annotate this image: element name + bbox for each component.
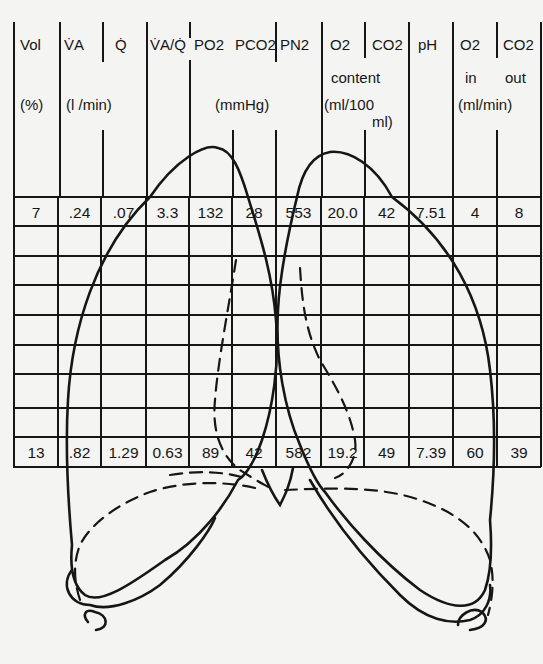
apex-o2-in: 4 — [453, 204, 497, 222]
apex-po2: 132 — [189, 204, 232, 222]
apex-o2-content: 20.0 — [321, 204, 364, 222]
apex-va-q: 3.3 — [146, 204, 189, 222]
base-vol: 13 — [14, 444, 58, 462]
base-q: 1.29 — [101, 444, 146, 462]
col-header-pco2: PCO2 — [235, 37, 276, 53]
col-header-pn2: PN2 — [280, 37, 309, 53]
base-va: .82 — [58, 444, 101, 462]
apex-va: .24 — [58, 204, 101, 222]
content-unit-ml: ml) — [372, 114, 393, 130]
flow-unit: (l /min) — [66, 97, 112, 113]
vol-unit: (%) — [20, 97, 43, 113]
col-header-o2-content: O2 — [330, 37, 350, 53]
apex-pn2: 553 — [276, 204, 321, 222]
base-pn2: 582 — [276, 444, 321, 462]
col-header-co2-out: CO2 — [503, 37, 534, 53]
out-label: out — [505, 70, 526, 86]
col-header-po2: PO2 — [194, 37, 224, 53]
pressure-unit: (mmHg) — [215, 97, 269, 113]
base-co2-content: 49 — [364, 444, 409, 462]
apex-pco2: 28 — [232, 204, 276, 222]
apex-q: .07 — [101, 204, 146, 222]
col-header-va-q-ratio: V̇A/Q̇ — [150, 37, 186, 53]
content-label: content — [331, 70, 380, 86]
in-label: in — [465, 70, 477, 86]
apex-ph: 7.51 — [409, 204, 453, 222]
apex-vol: 7 — [14, 204, 58, 222]
base-va-q: 0.63 — [146, 444, 189, 462]
base-ph: 7.39 — [409, 444, 453, 462]
content-unit: (ml/100 — [324, 97, 374, 113]
col-header-o2-in: O2 — [460, 37, 480, 53]
col-header-perfusion: Q̇ — [115, 37, 127, 53]
base-pco2: 42 — [232, 444, 276, 462]
col-header-ph: pH — [418, 37, 437, 53]
col-header-co2-content: CO2 — [372, 37, 403, 53]
lung-diagram: Vol V̇A Q̇ V̇A/Q̇ PO2 PCO2 PN2 O2 CO2 pH… — [0, 0, 543, 664]
base-po2: 89 — [189, 444, 232, 462]
base-o2-content: 19.2 — [321, 444, 364, 462]
exchange-unit: (ml/min) — [458, 97, 512, 113]
base-co2-out: 39 — [497, 444, 541, 462]
col-header-alveolar-ventilation: V̇A — [64, 37, 84, 53]
apex-co2-out: 8 — [497, 204, 541, 222]
base-o2-in: 60 — [453, 444, 497, 462]
apex-co2-content: 42 — [364, 204, 409, 222]
col-header-vol: Vol — [20, 37, 41, 53]
